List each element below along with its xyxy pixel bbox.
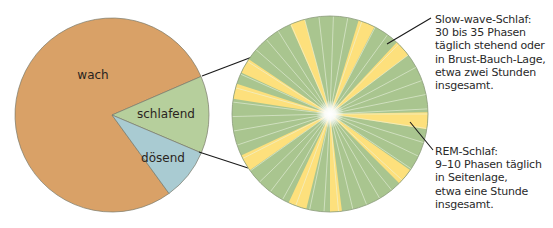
center-glow — [316, 100, 344, 128]
label-schlafend: schlafend — [137, 107, 195, 121]
right-pie-chart — [232, 16, 428, 212]
annotation-line: Slow-wave-Schlaf: — [435, 13, 546, 26]
annotation-slow-wave: Slow-wave-Schlaf: 30 bis 35 Phasen tägli… — [435, 13, 546, 92]
annotation-line: etwa eine Stunde — [435, 185, 542, 198]
annotation-line: insgesamt. — [435, 79, 546, 92]
leader-slow-wave — [387, 18, 431, 44]
annotation-line: REM-Schlaf: — [435, 145, 542, 158]
annotation-line: insgesamt. — [435, 198, 542, 211]
left-pie-chart: wach schlafend dösend — [15, 18, 209, 212]
annotation-line: täglich stehend oder — [435, 39, 546, 52]
label-doesend: dösend — [141, 151, 185, 165]
annotation-line: in Seitenlage, — [435, 171, 542, 184]
annotation-line: etwa zwei Stunden — [435, 66, 546, 79]
annotation-line: 30 bis 35 Phasen — [435, 26, 546, 39]
label-wach: wach — [77, 68, 108, 82]
annotation-line: 9–10 Phasen täglich — [435, 158, 542, 171]
annotation-rem: REM-Schlaf: 9–10 Phasen täglich in Seite… — [435, 145, 542, 211]
annotation-line: in Brust-Bauch-Lage, — [435, 53, 546, 66]
